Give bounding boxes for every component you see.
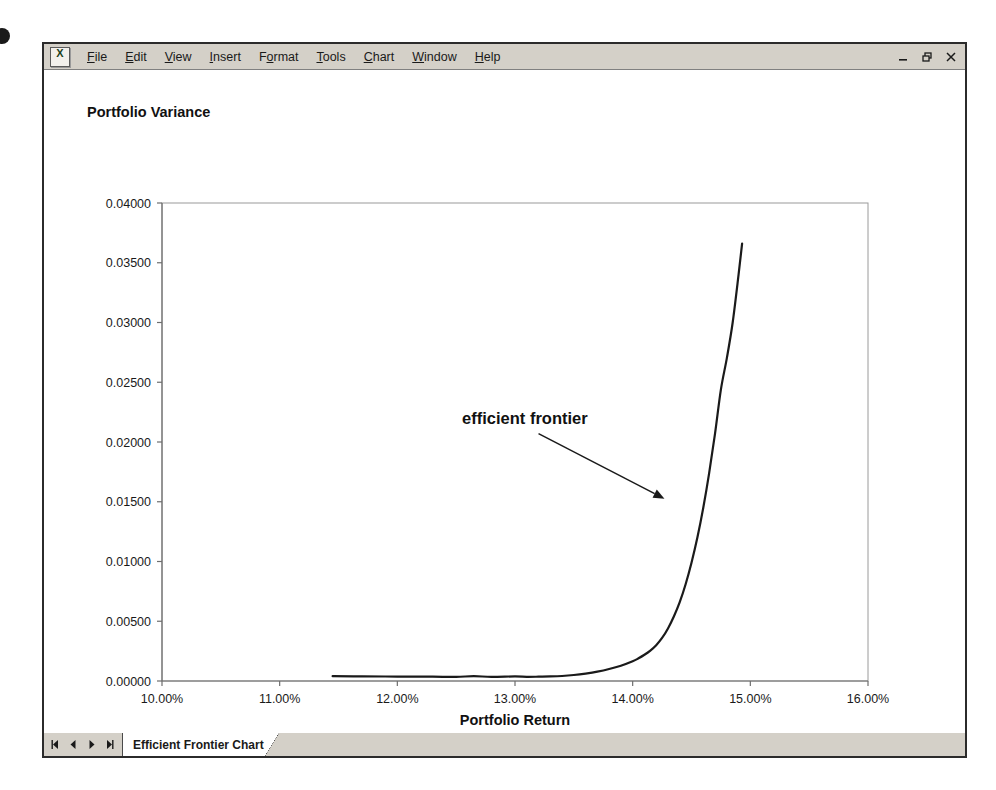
y-tick-label: 0.02500 (106, 376, 151, 390)
x-axis-ticks (162, 681, 868, 686)
x-tick-label: 12.00% (376, 692, 418, 706)
close-icon[interactable] (945, 51, 959, 63)
y-tick-label: 0.01000 (106, 555, 151, 569)
menu-format[interactable]: Format (250, 47, 308, 67)
menu-chart[interactable]: Chart (355, 47, 404, 67)
restore-icon[interactable] (921, 51, 935, 63)
efficient-frontier-chart[interactable]: 0.000000.005000.010000.015000.020000.025… (44, 70, 965, 732)
x-tick-label: 15.00% (729, 692, 771, 706)
sheet-nav-buttons (44, 733, 122, 756)
chart-client-area: 0.000000.005000.010000.015000.020000.025… (44, 70, 965, 732)
x-axis-tick-labels: 10.00%11.00%12.00%13.00%14.00%15.00%16.0… (141, 692, 889, 706)
sheet-tab-label: Efficient Frontier Chart (133, 738, 264, 752)
sheet-tab-efficient-frontier-chart[interactable]: Efficient Frontier Chart (122, 733, 278, 756)
y-tick-label: 0.01500 (106, 495, 151, 509)
menu-edit[interactable]: Edit (116, 47, 156, 67)
x-tick-label: 16.00% (847, 692, 889, 706)
menu-view[interactable]: View (156, 47, 201, 67)
menu-bar: File Edit View Insert Format Tools Chart… (44, 44, 965, 70)
menu-insert[interactable]: Insert (201, 47, 250, 67)
y-tick-label: 0.00000 (106, 675, 151, 689)
y-tick-label: 0.04000 (106, 197, 151, 211)
x-axis-title: Portfolio Return (460, 712, 570, 728)
menu-window[interactable]: Window (403, 47, 465, 67)
x-tick-label: 10.00% (141, 692, 183, 706)
y-tick-label: 0.03500 (106, 256, 151, 270)
window-controls (897, 44, 959, 70)
previous-sheet-icon[interactable] (68, 739, 79, 751)
first-sheet-icon[interactable] (50, 739, 61, 751)
menu-file[interactable]: File (78, 47, 116, 67)
efficient-frontier-label: efficient frontier (462, 409, 588, 427)
y-tick-label: 0.02000 (106, 436, 151, 450)
minimize-icon[interactable] (897, 51, 911, 63)
y-axis-ticks (157, 203, 162, 681)
menu-tools[interactable]: Tools (307, 47, 354, 67)
y-tick-label: 0.03000 (106, 316, 151, 330)
next-sheet-icon[interactable] (86, 739, 97, 751)
x-tick-label: 11.00% (259, 692, 300, 706)
plot-area-border (162, 203, 868, 681)
last-sheet-icon[interactable] (104, 739, 115, 751)
excel-chart-window: File Edit View Insert Format Tools Chart… (42, 42, 967, 758)
scan-artifact-dot (0, 28, 10, 44)
menu-help[interactable]: Help (466, 47, 510, 67)
tab-bar-filler (278, 733, 965, 756)
sheet-tab-bar: Efficient Frontier Chart (44, 732, 965, 756)
excel-icon[interactable] (50, 47, 70, 67)
y-axis-title: Portfolio Variance (87, 104, 210, 120)
x-tick-label: 14.00% (611, 692, 653, 706)
y-tick-label: 0.00500 (106, 615, 151, 629)
x-tick-label: 13.00% (494, 692, 536, 706)
y-axis-tick-labels: 0.000000.005000.010000.015000.020000.025… (106, 197, 151, 689)
